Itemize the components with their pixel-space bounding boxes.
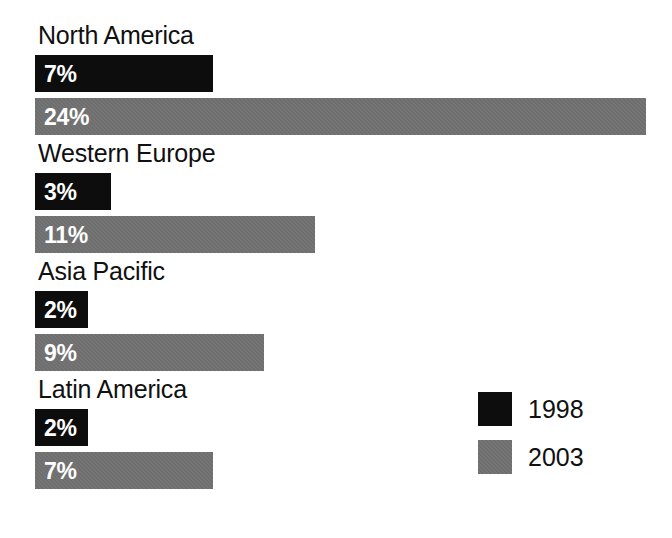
bar-western-europe-1998[interactable]: 3% <box>35 173 111 210</box>
bar-north-america-2003[interactable]: 24% <box>35 98 646 135</box>
bar-value-north-america-2003: 24% <box>44 103 89 130</box>
bar-asia-pacific-2003[interactable]: 9% <box>35 334 264 371</box>
bar-western-europe-2003[interactable]: 11% <box>35 216 315 253</box>
bar-latin-america-2003[interactable]: 7% <box>35 452 213 489</box>
bar-value-western-europe-1998: 3% <box>44 178 77 205</box>
bar-chart: North America 7% 24% Western Europe 3% 1… <box>0 0 672 538</box>
legend-item-2003[interactable]: 2003 <box>478 438 658 486</box>
category-label-western-europe: Western Europe <box>38 140 215 167</box>
bar-group-north-america: North America 7% 24% <box>0 22 672 140</box>
bar-value-western-europe-2003: 11% <box>44 221 88 248</box>
legend-label-2003: 2003 <box>528 438 584 476</box>
bar-latin-america-1998[interactable]: 2% <box>35 409 88 446</box>
category-label-asia-pacific: Asia Pacific <box>38 258 165 285</box>
bar-asia-pacific-1998[interactable]: 2% <box>35 291 88 328</box>
bar-group-asia-pacific: Asia Pacific 2% 9% <box>0 258 672 376</box>
legend-label-1998: 1998 <box>528 390 584 428</box>
bar-value-asia-pacific-2003: 9% <box>44 339 77 366</box>
bar-value-north-america-1998: 7% <box>44 60 77 87</box>
category-label-north-america: North America <box>38 22 194 49</box>
legend-swatch-2003-icon <box>478 440 512 474</box>
legend-swatch-1998-icon <box>478 392 512 426</box>
legend-item-1998[interactable]: 1998 <box>478 390 658 438</box>
category-label-latin-america: Latin America <box>38 376 187 403</box>
bar-value-latin-america-2003: 7% <box>44 457 77 484</box>
bar-value-latin-america-1998: 2% <box>44 414 77 441</box>
bar-north-america-1998[interactable]: 7% <box>35 55 213 92</box>
bar-value-asia-pacific-1998: 2% <box>44 296 77 323</box>
bar-group-western-europe: Western Europe 3% 11% <box>0 140 672 258</box>
chart-legend: 1998 2003 <box>478 390 658 486</box>
